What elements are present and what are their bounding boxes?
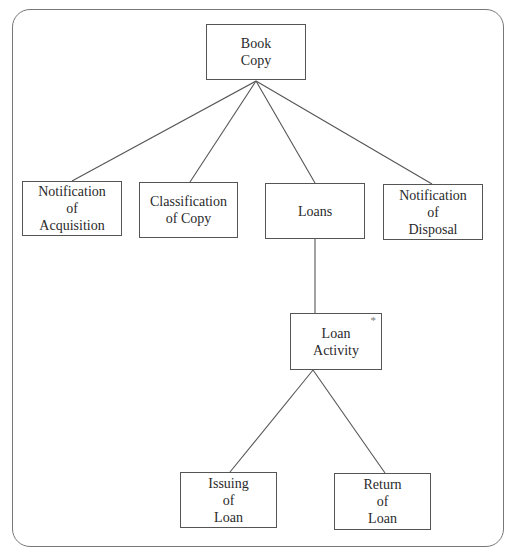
- node-label-line: Notification: [399, 187, 467, 204]
- node-label-line: Loan: [214, 509, 243, 526]
- node-loans: Loans: [265, 183, 365, 239]
- node-label-line: of: [223, 492, 235, 509]
- node-label-line: Acquisition: [39, 217, 104, 234]
- edge-book-copy-to-loans: [256, 81, 315, 183]
- node-loan-activity: * Loan Activity: [290, 313, 382, 370]
- node-classification-of-copy: Classification of Copy: [139, 182, 238, 238]
- node-label-line: Copy: [241, 52, 271, 69]
- edge-book-copy-to-classification-copy: [190, 81, 256, 182]
- node-label-line: Notification: [38, 183, 106, 200]
- iteration-marker-icon: *: [371, 315, 377, 326]
- node-label-line: Issuing: [208, 475, 248, 492]
- node-label-line: of: [66, 200, 78, 217]
- node-label-line: Loan: [368, 510, 397, 527]
- node-label-line: Activity: [313, 342, 359, 359]
- node-notification-of-disposal: Notification of Disposal: [383, 184, 483, 240]
- node-book-copy: Book Copy: [206, 24, 306, 80]
- edge-book-copy-to-notification-disposal: [256, 81, 432, 184]
- node-label-line: Book: [241, 35, 271, 52]
- node-label-line: Loan: [322, 325, 351, 342]
- node-label-line: of: [377, 493, 389, 510]
- edge-loan-activity-to-issuing-loan: [230, 370, 313, 472]
- node-label-line: Return: [363, 476, 401, 493]
- node-label-line: Classification: [150, 193, 227, 210]
- node-issuing-of-loan: Issuing of Loan: [180, 472, 277, 528]
- node-return-of-loan: Return of Loan: [334, 473, 431, 530]
- node-notification-of-acquisition: Notification of Acquisition: [22, 181, 122, 236]
- edge-book-copy-to-notification-acquisition: [72, 81, 256, 181]
- node-label-line: of: [427, 204, 439, 221]
- node-label-line: of Copy: [166, 210, 212, 227]
- node-label-line: Loans: [298, 203, 332, 220]
- node-label-line: Disposal: [409, 221, 458, 238]
- edge-loan-activity-to-return-loan: [313, 370, 385, 473]
